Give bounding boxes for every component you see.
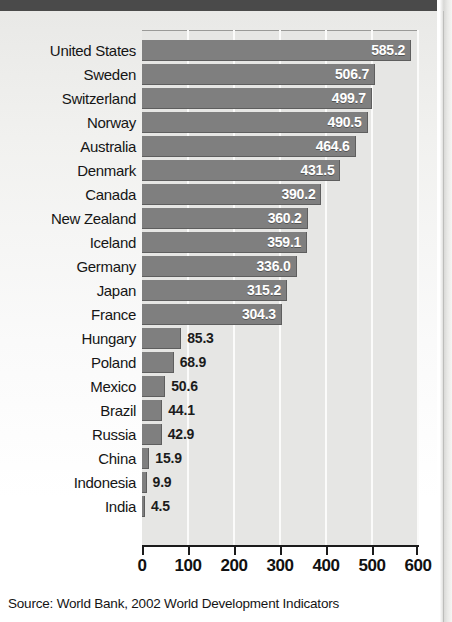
category-label-row: Germany <box>0 256 136 280</box>
bar-value-label: 44.1 <box>168 400 194 421</box>
bar-value-label: 85.3 <box>187 328 213 349</box>
bar-row: 360.2 <box>142 208 418 232</box>
x-axis-tick <box>142 547 144 555</box>
category-label-row: Poland <box>0 352 136 376</box>
category-label: Mexico <box>0 376 136 397</box>
category-label-row: India <box>0 496 136 520</box>
bar-chart: United StatesSwedenSwitzerlandNorwayAust… <box>0 0 452 622</box>
bar-row: 490.5 <box>142 112 418 136</box>
bar-value-label: 9.9 <box>153 472 172 493</box>
bar-value-label: 315.2 <box>247 282 286 298</box>
x-axis-tick <box>280 547 282 555</box>
bar[interactable] <box>142 352 174 373</box>
category-label-row: Switzerland <box>0 88 136 112</box>
category-label: United States <box>0 40 136 61</box>
bar-row: 68.9 <box>142 352 418 376</box>
bar[interactable] <box>142 424 162 445</box>
category-label: Poland <box>0 352 136 373</box>
bar-row: 15.9 <box>142 448 418 472</box>
bar[interactable]: 506.7 <box>142 64 375 85</box>
x-axis-tick <box>326 547 328 555</box>
bar-value-label: 506.7 <box>335 66 374 82</box>
category-label-row: Mexico <box>0 376 136 400</box>
bar-value-label: 68.9 <box>180 352 206 373</box>
bar[interactable]: 490.5 <box>142 112 368 133</box>
category-label-row: Australia <box>0 136 136 160</box>
category-label: New Zealand <box>0 208 136 229</box>
category-label: Russia <box>0 424 136 445</box>
bar-row: 336.0 <box>142 256 418 280</box>
category-label-row: France <box>0 304 136 328</box>
category-axis-labels: United StatesSwedenSwitzerlandNorwayAust… <box>0 40 136 520</box>
bar[interactable]: 390.2 <box>142 184 321 205</box>
category-label: Japan <box>0 280 136 301</box>
bar-value-label: 585.2 <box>371 42 410 58</box>
bar-value-label: 464.6 <box>316 138 355 154</box>
bar-value-label: 499.7 <box>332 90 371 106</box>
bar[interactable] <box>142 376 165 397</box>
category-label-row: Iceland <box>0 232 136 256</box>
bar[interactable] <box>142 448 149 469</box>
bar-row: 315.2 <box>142 280 418 304</box>
bar-value-label: 50.6 <box>171 376 197 397</box>
bar-row: 359.1 <box>142 232 418 256</box>
bar[interactable]: 585.2 <box>142 40 411 61</box>
category-label-row: Indonesia <box>0 472 136 496</box>
category-label-row: Brazil <box>0 400 136 424</box>
bar[interactable]: 360.2 <box>142 208 308 229</box>
x-axis-tick <box>372 547 374 555</box>
x-axis-tick <box>416 547 418 555</box>
bar-row: 431.5 <box>142 160 418 184</box>
bar-value-label: 490.5 <box>328 114 367 130</box>
bar[interactable]: 359.1 <box>142 232 307 253</box>
category-label: Norway <box>0 112 136 133</box>
x-axis-tick-label: 600 <box>388 556 448 576</box>
bar[interactable]: 499.7 <box>142 88 372 109</box>
category-label-row: China <box>0 448 136 472</box>
category-label: France <box>0 304 136 325</box>
category-label-row: Canada <box>0 184 136 208</box>
category-label-row: Norway <box>0 112 136 136</box>
category-label-row: Russia <box>0 424 136 448</box>
bar[interactable] <box>142 400 162 421</box>
bar-row: 9.9 <box>142 472 418 496</box>
category-label: Iceland <box>0 232 136 253</box>
bar[interactable]: 464.6 <box>142 136 356 157</box>
bar-row: 85.3 <box>142 328 418 352</box>
bar-row: 506.7 <box>142 64 418 88</box>
bar-row: 4.5 <box>142 496 418 520</box>
bar-row: 499.7 <box>142 88 418 112</box>
bar-value-label: 359.1 <box>267 234 306 250</box>
category-label: Sweden <box>0 64 136 85</box>
x-axis-tick <box>188 547 190 555</box>
category-label-row: Sweden <box>0 64 136 88</box>
bar-value-label: 304.3 <box>242 306 281 322</box>
bar-value-label: 42.9 <box>168 424 194 445</box>
bar-value-label: 431.5 <box>300 162 339 178</box>
bar-row: 390.2 <box>142 184 418 208</box>
bar-value-label: 336.0 <box>257 258 296 274</box>
bar-value-label: 390.2 <box>281 186 320 202</box>
bar[interactable]: 304.3 <box>142 304 282 325</box>
bar-row: 50.6 <box>142 376 418 400</box>
bar[interactable]: 315.2 <box>142 280 287 301</box>
bar-row: 42.9 <box>142 424 418 448</box>
category-label-row: Hungary <box>0 328 136 352</box>
category-label: China <box>0 448 136 469</box>
category-label: India <box>0 496 136 517</box>
bar[interactable] <box>142 472 147 493</box>
bar[interactable]: 431.5 <box>142 160 340 181</box>
bar-value-label: 15.9 <box>155 448 181 469</box>
bars-group: 585.2506.7499.7490.5464.6431.5390.2360.2… <box>142 40 418 520</box>
category-label: Canada <box>0 184 136 205</box>
bar[interactable] <box>142 496 145 517</box>
source-note: Source: World Bank, 2002 World Developme… <box>8 596 339 611</box>
bar-row: 585.2 <box>142 40 418 64</box>
category-label-row: Denmark <box>0 160 136 184</box>
bar-row: 44.1 <box>142 400 418 424</box>
x-axis-tick <box>234 547 236 555</box>
bar[interactable] <box>142 328 181 349</box>
figure-page: United StatesSwedenSwitzerlandNorwayAust… <box>0 0 452 622</box>
bar[interactable]: 336.0 <box>142 256 297 277</box>
category-label: Hungary <box>0 328 136 349</box>
